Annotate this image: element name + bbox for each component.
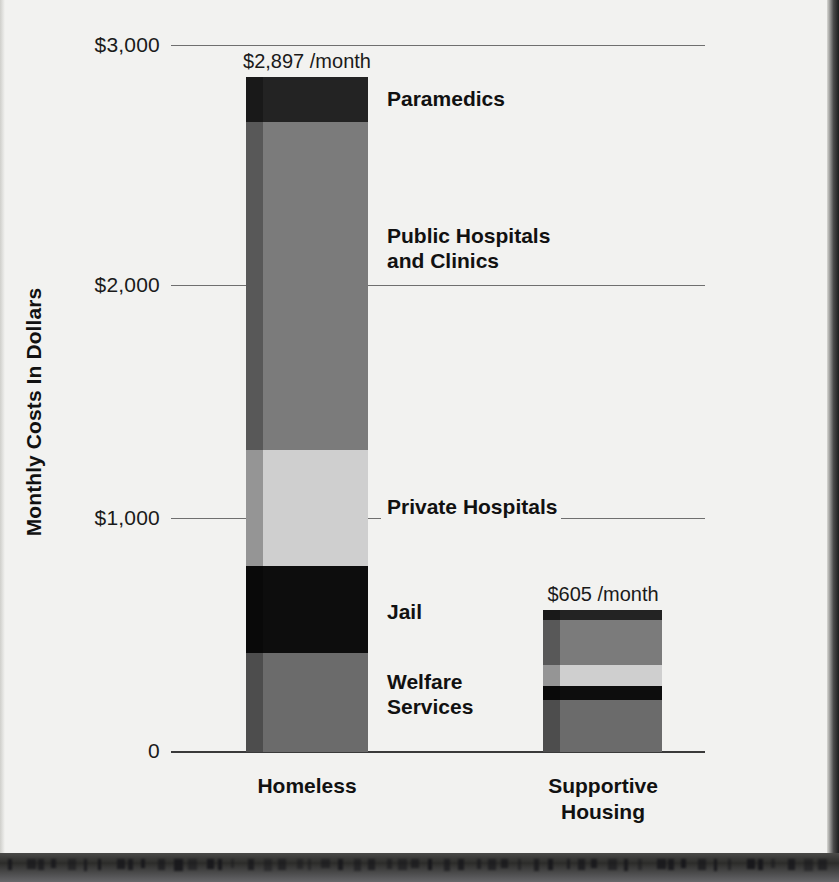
scan-speckle xyxy=(477,859,481,869)
bar-segment-shading xyxy=(543,686,560,700)
scan-speckle xyxy=(188,859,197,870)
scan-speckle xyxy=(174,859,183,871)
scan-speckle xyxy=(264,859,272,871)
bar-segment-supportive-housing-welfare-services[interactable] xyxy=(543,700,662,752)
bar-segment-supportive-housing-paramedics[interactable] xyxy=(543,610,662,620)
bar-segment-homeless-welfare-services[interactable] xyxy=(246,653,368,752)
scan-speckle xyxy=(27,859,36,869)
scan-speckle xyxy=(428,859,432,870)
category-label-homeless: Homeless xyxy=(197,773,417,799)
scan-speckle xyxy=(804,859,813,871)
scan-speckle xyxy=(117,859,125,869)
bar-segment-supportive-housing-public-hospitals[interactable] xyxy=(543,620,662,665)
scan-speckle xyxy=(368,859,375,870)
scan-speckle xyxy=(354,859,361,871)
scan-speckle xyxy=(728,859,731,870)
scan-speckle xyxy=(591,859,597,868)
scan-speckle xyxy=(668,859,674,870)
scan-speckle xyxy=(321,859,330,868)
scan-speckle xyxy=(458,859,464,870)
series-label-jail: Jail xyxy=(381,598,426,625)
scan-speckle xyxy=(84,859,87,871)
bar-segment-homeless-paramedics[interactable] xyxy=(246,77,368,122)
scan-speckle xyxy=(68,859,76,870)
scan-speckle xyxy=(38,859,44,870)
scan-speckle xyxy=(51,859,56,868)
bar-segment-shading xyxy=(543,610,560,620)
scan-speckle xyxy=(398,859,407,870)
bar-segment-homeless-public-hospitals[interactable] xyxy=(246,122,368,450)
scan-speckle xyxy=(488,859,496,870)
scan-speckle xyxy=(567,859,570,869)
bar-segment-shading xyxy=(246,653,263,752)
bar-segment-shading xyxy=(246,77,263,122)
scan-speckle xyxy=(518,859,521,870)
scan-speckle xyxy=(338,859,343,870)
bar-segment-shading xyxy=(246,122,263,450)
y-tick-label-2000: $2,000 xyxy=(0,273,160,297)
bar-segment-shading xyxy=(543,700,560,752)
scan-speckle xyxy=(297,859,303,869)
y-tick-label-1000: $1,000 xyxy=(0,506,160,530)
bar-segment-supportive-housing-private-hospitals[interactable] xyxy=(543,665,662,686)
scan-speckle xyxy=(578,859,585,870)
scan-speckle xyxy=(788,859,795,870)
scan-speckle xyxy=(248,859,254,870)
scan-speckle xyxy=(231,859,234,868)
scan-speckle xyxy=(624,859,628,871)
scan-speckle xyxy=(758,859,763,870)
bar-total-label-supportive-housing: $605 /month xyxy=(513,583,693,606)
gridline-3000 xyxy=(171,45,705,46)
scan-speckle xyxy=(608,859,617,870)
bar-segment-shading xyxy=(543,665,560,686)
bar-segment-shading xyxy=(246,566,263,653)
scan-speckle xyxy=(158,859,165,870)
scan-speckle xyxy=(771,859,775,868)
bar-segment-supportive-housing-jail[interactable] xyxy=(543,686,662,700)
bar-homeless[interactable] xyxy=(246,77,368,752)
bar-total-label-homeless: $2,897 /month xyxy=(207,50,407,73)
bar-segment-homeless-private-hospitals[interactable] xyxy=(246,450,368,566)
series-label-welfare-services: Welfare Services xyxy=(381,668,477,720)
y-tick-label-0: 0 xyxy=(0,739,160,763)
scan-speckle xyxy=(128,859,133,870)
scan-speckle xyxy=(218,859,222,870)
scan-speckle xyxy=(444,859,450,871)
bar-supportive-housing[interactable] xyxy=(543,610,662,752)
scan-speckle xyxy=(657,859,666,869)
scan-speckle xyxy=(308,859,311,870)
series-label-public-hospitals-and-clinics: Public Hospitals and Clinics xyxy=(381,222,554,274)
chart-figure: Monthly Costs In Dollars $3,000 $2,000 $… xyxy=(0,0,839,882)
scan-speckle xyxy=(207,859,214,869)
scan-speckle xyxy=(387,859,392,869)
scan-speckle xyxy=(714,859,717,871)
scan-speckle xyxy=(681,859,686,868)
category-label-supportive-housing: Supportive Housing xyxy=(498,773,708,824)
scan-speckle xyxy=(141,859,145,868)
scan-speckle xyxy=(501,859,508,868)
series-label-paramedics: Paramedics xyxy=(381,85,509,112)
scan-speckle xyxy=(638,859,642,870)
bar-segment-shading xyxy=(246,450,263,566)
y-tick-label-3000: $3,000 xyxy=(0,33,160,57)
series-label-private-hospitals: Private Hospitals xyxy=(381,493,561,520)
bar-segment-homeless-jail[interactable] xyxy=(246,566,368,653)
scan-speckle xyxy=(698,859,706,870)
scan-speckle xyxy=(278,859,286,870)
bar-segment-shading xyxy=(543,620,560,665)
scan-speckle xyxy=(818,859,827,870)
scan-speckle xyxy=(8,859,12,870)
scan-speckle xyxy=(548,859,553,870)
scan-speckle xyxy=(411,859,419,868)
scan-speckle xyxy=(747,859,755,869)
page-edge-bottom-shadow xyxy=(0,853,839,882)
plot-area: Monthly Costs In Dollars $3,000 $2,000 $… xyxy=(0,0,839,853)
scan-speckle xyxy=(534,859,539,871)
scan-speckle xyxy=(98,859,101,870)
